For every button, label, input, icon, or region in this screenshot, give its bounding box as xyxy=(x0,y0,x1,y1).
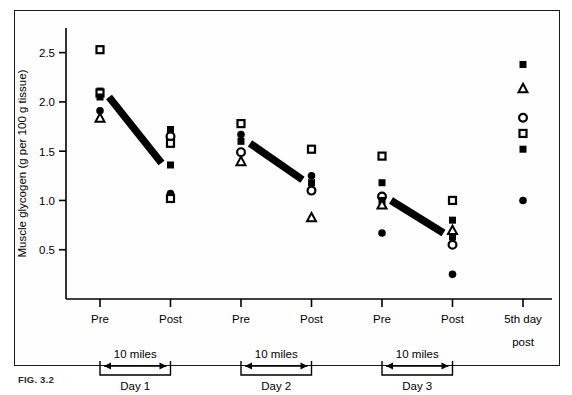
figure-caption: FIG. 3.2 xyxy=(18,374,318,385)
data-point-filled-circle xyxy=(449,271,457,279)
data-point-filled-square xyxy=(167,161,174,168)
data-point-filled-square xyxy=(520,146,527,153)
data-point-open-triangle xyxy=(519,84,528,92)
data-point-open-square xyxy=(167,140,174,147)
data-point-filled-square xyxy=(449,233,456,240)
axis-layer xyxy=(59,28,552,307)
data-point-open-triangle xyxy=(448,226,457,234)
y-axis-tick-label: 0.5 xyxy=(39,244,55,256)
bracket-distance-label: 10 miles xyxy=(114,348,157,360)
data-point-filled-square xyxy=(97,93,104,100)
distance-arrow-head-left xyxy=(386,363,393,370)
data-point-filled-circle xyxy=(308,172,316,180)
data-point-filled-square xyxy=(520,61,527,68)
y-axis-tick-label: 1.0 xyxy=(39,195,55,207)
trend-line-day-3 xyxy=(391,200,444,233)
x-axis-tick-label: Post xyxy=(159,313,183,325)
data-point-filled-square xyxy=(308,179,315,186)
trend-line-layer xyxy=(109,97,444,233)
data-point-open-circle xyxy=(449,241,457,249)
data-point-filled-circle xyxy=(378,229,386,237)
day-bracket-3: 10 milesDay 3 xyxy=(382,348,453,392)
data-point-open-square xyxy=(167,195,174,202)
bracket-day-label: Day 3 xyxy=(402,380,432,392)
data-point-open-square xyxy=(449,197,456,204)
distance-arrow-head-right xyxy=(301,363,308,370)
data-point-filled-circle xyxy=(237,131,245,139)
trend-line-day-2 xyxy=(250,143,303,179)
x-axis-tick-label: Pre xyxy=(373,313,391,325)
data-point-open-square xyxy=(238,120,245,127)
distance-arrow-head-left xyxy=(104,363,111,370)
x-axis-tick-label: Post xyxy=(441,313,465,325)
figure-root: 0.51.01.52.02.5Muscle glycogen (g per 10… xyxy=(0,0,572,395)
x-axis-tick-label: Pre xyxy=(232,313,250,325)
plot-area: 0.51.01.52.02.5Muscle glycogen (g per 10… xyxy=(0,0,572,395)
data-point-open-triangle xyxy=(96,113,105,121)
x-axis-tick-label: Post xyxy=(300,313,324,325)
data-point-open-circle xyxy=(308,187,316,195)
data-point-open-square xyxy=(520,130,527,137)
x-axis-tick-sublabel: post xyxy=(512,336,535,348)
data-point-open-circle xyxy=(519,114,527,122)
figure-caption-id: FIG. 3.2 xyxy=(18,374,318,385)
y-axis-tick-label: 2.0 xyxy=(39,96,55,108)
data-point-filled-square xyxy=(238,138,245,145)
data-point-open-square xyxy=(308,146,315,153)
axis-label-layer: 0.51.01.52.02.5Muscle glycogen (g per 10… xyxy=(16,47,542,348)
y-axis-tick-label: 2.5 xyxy=(39,47,55,59)
x-axis-tick-label: 5th day xyxy=(504,313,542,325)
bracket-distance-label: 10 miles xyxy=(396,348,439,360)
bracket-distance-label: 10 miles xyxy=(255,348,298,360)
data-point-filled-circle xyxy=(519,197,527,205)
trend-line-day-1 xyxy=(109,97,162,163)
day-bracket-1: 10 milesDay 1 xyxy=(100,348,171,392)
data-point-filled-square xyxy=(449,217,456,224)
day-bracket-2: 10 milesDay 2 xyxy=(241,348,312,392)
distance-arrow-head-right xyxy=(442,363,449,370)
data-point-open-triangle xyxy=(307,213,316,221)
y-axis-title: Muscle glycogen (g per 100 g tissue) xyxy=(16,69,28,257)
x-axis-tick-label: Pre xyxy=(91,313,109,325)
data-point-open-triangle xyxy=(237,157,246,165)
distance-arrow-head-right xyxy=(160,363,167,370)
distance-arrow-head-left xyxy=(245,363,252,370)
scatter-chart: 0.51.01.52.02.5Muscle glycogen (g per 10… xyxy=(0,0,572,395)
data-point-open-square xyxy=(379,153,386,160)
data-point-filled-square xyxy=(379,179,386,186)
data-point-open-square xyxy=(97,46,104,53)
day-bracket-layer: 10 milesDay 110 milesDay 210 milesDay 3 xyxy=(100,348,453,392)
y-axis-tick-label: 1.5 xyxy=(39,146,55,158)
